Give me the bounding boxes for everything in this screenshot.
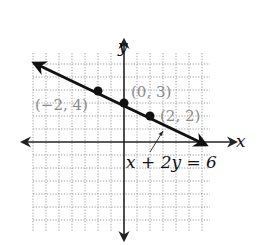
pointer-arrowhead-icon	[159, 131, 164, 136]
point-label-2-2: (2, 2)	[160, 107, 200, 125]
point-0-3	[120, 99, 129, 108]
point-label-0-3: (0, 3)	[131, 83, 171, 101]
point-neg2-4	[94, 87, 103, 96]
equation-label: x + 2y = 6	[126, 152, 217, 172]
point-label-neg2-4: (−2, 4)	[35, 96, 88, 114]
y-axis-label: y	[117, 36, 128, 56]
point-2-2	[146, 112, 155, 121]
x-axis-label: x	[236, 131, 246, 151]
coordinate-graph: y x (−2, 4) (0, 3) (2, 2) x + 2y = 6	[0, 0, 262, 245]
